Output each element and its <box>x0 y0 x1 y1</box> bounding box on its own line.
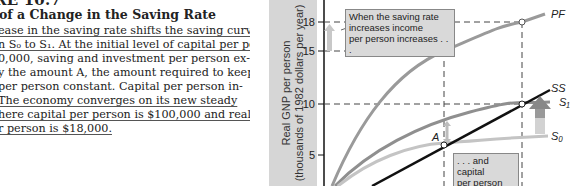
point-initial-steady-state <box>441 142 447 148</box>
label-s0: S₀ <box>551 130 563 142</box>
income-note: When the saving rate increases income pe… <box>345 9 455 57</box>
point-new-output <box>519 19 525 25</box>
tick-label-5: 5 <box>309 149 315 161</box>
label-a: A <box>431 131 439 143</box>
income-increase-arrow <box>324 24 335 51</box>
tick-label-18: 18 <box>303 16 315 28</box>
point-new-steady-state <box>519 101 525 107</box>
label-ss: SS <box>551 82 566 94</box>
tick-label-10: 10 <box>303 98 315 110</box>
label-s1: S₁ <box>559 96 570 108</box>
capital-note: . . . and capital per person increases <box>453 153 519 186</box>
tick-label-15: 15 <box>303 45 315 57</box>
label-pf: PF <box>551 8 566 20</box>
